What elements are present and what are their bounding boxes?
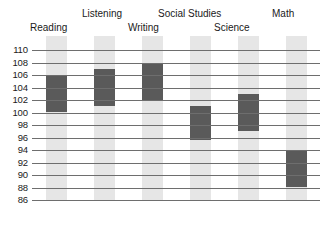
gridline <box>32 163 320 164</box>
y-axis-tick-label: 90 <box>0 170 28 180</box>
y-axis-tick-label: 98 <box>0 120 28 130</box>
category-label-social-studies: Social Studies <box>158 8 221 19</box>
gridline <box>32 113 320 114</box>
category-label-science: Science <box>214 22 250 33</box>
range-bar <box>142 63 163 100</box>
gridline <box>32 125 320 126</box>
gridline <box>32 100 320 101</box>
gridline <box>32 200 320 201</box>
gridline <box>32 138 320 139</box>
range-bar <box>46 75 67 112</box>
y-axis-tick-label: 104 <box>0 83 28 93</box>
y-axis-tick-label: 86 <box>0 195 28 205</box>
gridline <box>32 175 320 176</box>
y-axis-tick-label: 88 <box>0 183 28 193</box>
category-label-reading: Reading <box>30 22 67 33</box>
y-axis-tick-label: 100 <box>0 108 28 118</box>
range-bar <box>190 106 211 140</box>
y-axis-tick-label: 108 <box>0 58 28 68</box>
y-axis: 11010810610410210098969492908886 <box>0 44 28 200</box>
category-label-listening: Listening <box>82 8 122 19</box>
y-axis-tick-label: 96 <box>0 133 28 143</box>
y-axis-tick-label: 106 <box>0 70 28 80</box>
gridline <box>32 150 320 151</box>
y-axis-tick-label: 102 <box>0 95 28 105</box>
gridline <box>32 88 320 89</box>
plot-area <box>32 44 320 200</box>
gridline <box>32 188 320 189</box>
gridline <box>32 50 320 51</box>
category-label-math: Math <box>272 8 294 19</box>
gridline <box>32 75 320 76</box>
gridline <box>32 63 320 64</box>
range-bar-chart: Reading Listening Writing Social Studies… <box>0 0 326 225</box>
y-axis-tick-label: 92 <box>0 158 28 168</box>
range-bar <box>286 150 307 187</box>
y-axis-tick-label: 110 <box>0 45 28 55</box>
category-label-writing: Writing <box>128 22 159 33</box>
y-axis-tick-label: 94 <box>0 145 28 155</box>
